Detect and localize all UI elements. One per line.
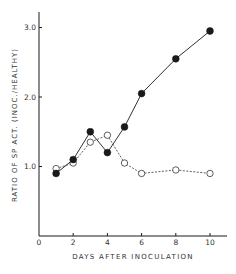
x-tick-label: 2	[71, 238, 76, 247]
open-circle-marker	[121, 160, 127, 166]
x-tick-label: 10	[205, 238, 215, 247]
open-circle-marker	[173, 167, 179, 173]
x-tick-label: 6	[139, 238, 144, 247]
x-tick-label: 4	[105, 238, 110, 247]
filled-circle-marker	[172, 55, 179, 62]
x-axis-label: DAYS AFTER INOCULATION	[39, 253, 227, 261]
filled-circle-marker	[207, 28, 214, 35]
filled-circle-marker	[104, 149, 111, 156]
filled-circle-marker	[53, 170, 60, 177]
y-axis-label: RATIO OF SP ACT. (INOC./HEALTHY)	[11, 48, 19, 202]
open-circle-marker	[87, 139, 93, 145]
filled-circle-marker	[121, 123, 128, 130]
open-circle-marker	[138, 170, 144, 176]
axes	[39, 12, 227, 236]
x-tick-label: 8	[173, 238, 178, 247]
y-axis-label-container: RATIO OF SP ACT. (INOC./HEALTHY)	[0, 0, 30, 236]
open-circle-marker	[207, 170, 213, 176]
series-line-2	[56, 135, 210, 173]
line-chart: 02468101.02.03.0	[0, 0, 236, 274]
series-line-1	[56, 31, 210, 173]
x-tick-label: 0	[37, 238, 42, 247]
open-circle-marker	[104, 132, 110, 138]
filled-circle-marker	[87, 128, 94, 135]
data-series	[53, 28, 214, 177]
filled-circle-marker	[138, 90, 145, 97]
filled-circle-marker	[70, 156, 77, 163]
